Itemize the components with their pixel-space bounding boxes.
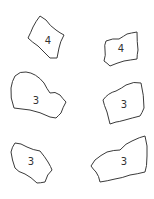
piece-bottom-right: 3 [91, 136, 147, 182]
piece-label: 4 [118, 43, 124, 54]
piece-middle-right: 3 [103, 82, 144, 124]
piece-top-left: 4 [28, 16, 64, 58]
piece-label: 3 [33, 95, 39, 106]
piece-label: 3 [28, 156, 34, 167]
piece-label: 3 [121, 99, 127, 110]
piece-bottom-left: 3 [11, 143, 52, 183]
piece-middle-left: 3 [11, 72, 66, 118]
piece-label: 3 [121, 156, 127, 167]
puzzle-pieces-diagram: 4 4 3 3 3 3 [0, 0, 154, 199]
piece-shape [91, 136, 147, 182]
piece-label: 4 [45, 35, 51, 46]
piece-top-right: 4 [104, 32, 138, 66]
